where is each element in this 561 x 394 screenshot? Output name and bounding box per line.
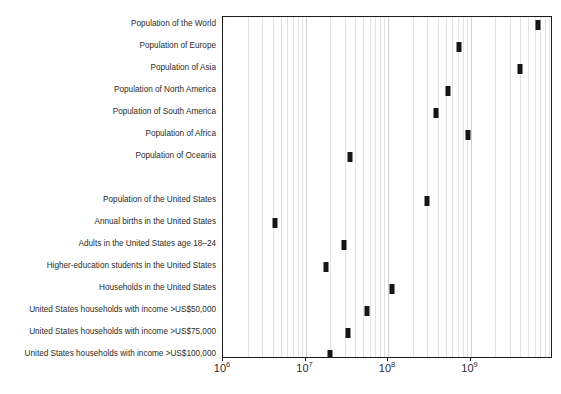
y-axis-label: United States households with income >US… <box>0 327 216 337</box>
gridline <box>330 17 331 357</box>
y-axis-label: Higher-education students in the United … <box>0 261 216 271</box>
y-axis-label: Population of Europe <box>0 41 216 51</box>
data-point-marker <box>364 306 369 316</box>
gridline <box>452 17 453 357</box>
data-point-marker <box>445 86 450 96</box>
gridline <box>467 17 468 357</box>
gridline <box>384 17 385 357</box>
data-point-marker <box>341 240 346 250</box>
data-point-marker <box>323 262 328 272</box>
data-point-marker <box>465 130 470 140</box>
data-point-marker <box>273 218 278 228</box>
y-axis-category-labels: Population of the WorldPopulation of Eur… <box>0 16 216 358</box>
gridline <box>302 17 303 357</box>
x-axis-tick <box>305 358 306 361</box>
data-point-marker <box>328 350 333 358</box>
gridline <box>471 17 472 357</box>
gridline <box>287 17 288 357</box>
data-point-marker <box>348 152 353 162</box>
y-axis-label: Households in the United States <box>0 283 216 293</box>
x-axis-tick <box>387 358 388 361</box>
x-axis-tick-label: 107 <box>296 362 312 374</box>
x-axis-tick <box>222 358 223 361</box>
y-axis-label: Population of North America <box>0 85 216 95</box>
y-axis-label: Population of Asia <box>0 63 216 73</box>
gridline <box>306 17 307 357</box>
data-point-marker <box>518 64 523 74</box>
data-point-marker <box>390 284 395 294</box>
y-axis-label: Population of the United States <box>0 195 216 205</box>
gridline <box>281 17 282 357</box>
gridline <box>427 17 428 357</box>
data-point-marker <box>434 108 439 118</box>
x-axis-tick-label: 108 <box>379 362 395 374</box>
y-axis-label: Population of Oceania <box>0 151 216 161</box>
x-axis-tick-label: 109 <box>461 362 477 374</box>
x-axis-tick-labels: 106107108109 <box>0 358 561 382</box>
y-axis-label: Population of the World <box>0 19 216 29</box>
gridline <box>528 17 529 357</box>
gridline <box>388 17 389 357</box>
gridline <box>549 17 550 357</box>
gridline <box>446 17 447 357</box>
x-axis-tick <box>470 358 471 361</box>
gridline <box>345 17 346 357</box>
gridline <box>495 17 496 357</box>
gridline <box>545 17 546 357</box>
plot-area <box>222 16 552 358</box>
y-axis-label: United States households with income >US… <box>0 305 216 315</box>
data-point-marker <box>425 196 430 206</box>
gridline <box>438 17 439 357</box>
data-point-marker <box>457 42 462 52</box>
population-log-scatter-chart: Population of the WorldPopulation of Eur… <box>0 0 561 394</box>
gridline <box>248 17 249 357</box>
data-point-marker <box>346 328 351 338</box>
gridline <box>298 17 299 357</box>
data-point-marker <box>535 20 540 30</box>
gridline <box>540 17 541 357</box>
gridline <box>380 17 381 357</box>
gridline <box>273 17 274 357</box>
y-axis-label: Adults in the United States age 18–24 <box>0 239 216 249</box>
x-axis-tick-label: 106 <box>214 362 230 374</box>
gridline <box>458 17 459 357</box>
gridline <box>535 17 536 357</box>
gridline <box>262 17 263 357</box>
gridline <box>370 17 371 357</box>
gridline <box>293 17 294 357</box>
gridline <box>510 17 511 357</box>
gridline <box>375 17 376 357</box>
gridline <box>413 17 414 357</box>
y-axis-label: Annual births in the United States <box>0 217 216 227</box>
gridline <box>463 17 464 357</box>
y-axis-label: Population of South America <box>0 107 216 117</box>
y-axis-label: Population of Africa <box>0 129 216 139</box>
gridline <box>355 17 356 357</box>
